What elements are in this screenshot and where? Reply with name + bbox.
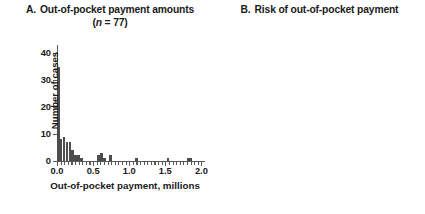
panel-a-y-axis-title: Number of cases: [49, 32, 60, 150]
x-tick-minor: [191, 162, 192, 165]
x-tick-minor: [144, 162, 145, 165]
panel-a-title-text: Out-of-pocket payment amounts: [40, 4, 194, 15]
x-tick-minor: [86, 162, 87, 165]
x-tick-minor: [82, 162, 83, 165]
x-tick-minor: [122, 162, 123, 165]
panel-a-plot-area: 010203040 0.00.51.01.52.0 Number of case…: [57, 45, 205, 162]
x-tick-minor: [140, 162, 141, 165]
x-tick-minor: [162, 162, 163, 165]
x-tick-major: [93, 162, 94, 166]
x-tick-minor: [151, 162, 152, 165]
figure-container: A.Out-of-pocket payment amounts (n = 77)…: [0, 0, 425, 214]
x-tick-minor: [147, 162, 148, 165]
panel-b-tag: B.: [241, 4, 251, 15]
histogram-bar: [135, 158, 138, 161]
x-tick-label: 0.0: [51, 166, 64, 176]
panel-a-title: A.Out-of-pocket payment amounts: [0, 3, 212, 16]
x-tick-label: 1.0: [123, 166, 136, 176]
panel-a-x-axis-title: Out-of-pocket payment, millions: [50, 180, 200, 191]
x-tick-major: [201, 162, 202, 166]
x-tick-minor: [126, 162, 127, 165]
x-tick-minor: [136, 162, 137, 165]
panel-a-subtitle-suffix: = 77): [102, 17, 128, 28]
x-tick-minor: [194, 162, 195, 165]
histogram-bar: [109, 155, 112, 160]
x-tick-minor: [176, 162, 177, 165]
x-tick-minor: [89, 162, 90, 165]
x-tick-minor: [104, 162, 105, 165]
x-tick-minor: [100, 162, 101, 165]
x-tick-minor: [173, 162, 174, 165]
x-tick-minor: [71, 162, 72, 165]
panel-b-title: B.Risk of out-of-pocket payment: [212, 3, 425, 16]
panel-a-tag: A.: [26, 4, 36, 15]
y-tick-label: 0: [46, 156, 51, 166]
x-tick-major: [165, 162, 166, 166]
x-tick-minor: [169, 162, 170, 165]
x-tick-major: [57, 162, 58, 166]
x-tick-label: 2.0: [195, 166, 208, 176]
x-tick-label: 0.5: [87, 166, 100, 176]
histogram-bar: [80, 158, 83, 161]
panel-a-subtitle: (n = 77): [0, 17, 212, 28]
panel-b: B.Risk of out-of-pocket payment 0.00.51.…: [212, 0, 425, 214]
panel-a: A.Out-of-pocket payment amounts (n = 77)…: [0, 0, 212, 214]
histogram-bar: [103, 158, 106, 161]
x-tick-minor: [133, 162, 134, 165]
x-tick-minor: [180, 162, 181, 165]
x-tick-minor: [79, 162, 80, 165]
x-tick-minor: [158, 162, 159, 165]
x-tick-minor: [111, 162, 112, 165]
x-tick-minor: [97, 162, 98, 165]
x-tick-minor: [108, 162, 109, 165]
x-tick-minor: [64, 162, 65, 165]
histogram-bar: [167, 158, 170, 161]
x-tick-minor: [198, 162, 199, 165]
x-tick-minor: [115, 162, 116, 165]
x-tick-label: 1.5: [159, 166, 172, 176]
x-tick-minor: [183, 162, 184, 165]
x-tick-minor: [187, 162, 188, 165]
x-tick-minor: [61, 162, 62, 165]
panel-b-title-text: Risk of out-of-pocket payment: [255, 4, 399, 15]
x-tick-minor: [154, 162, 155, 165]
histogram-bar: [190, 158, 193, 161]
x-tick-minor: [68, 162, 69, 165]
x-tick-minor: [75, 162, 76, 165]
x-tick-minor: [118, 162, 119, 165]
x-tick-major: [129, 162, 130, 166]
